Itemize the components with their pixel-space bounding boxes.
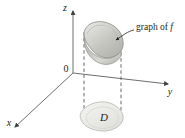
z-axis-label: z <box>62 2 67 13</box>
x-axis <box>15 73 73 127</box>
graph-of-f-label-prefix: graph of <box>136 22 170 32</box>
figure-canvas: D graph of f z y x 0 <box>0 0 185 138</box>
math-figure-graph-of-f: D graph of f z y x 0 <box>0 0 185 138</box>
region-d-label: D <box>99 111 108 123</box>
graph-of-f-label: graph of f <box>136 22 174 32</box>
surface-graph-group <box>84 22 123 65</box>
x-axis-label: x <box>6 117 12 128</box>
origin-label: 0 <box>64 63 69 74</box>
y-axis-label: y <box>167 86 173 97</box>
graph-of-f-label-symbol: f <box>170 22 174 32</box>
region-d-group: D <box>80 102 123 131</box>
y-axis <box>73 73 168 84</box>
graph-of-f-callout: graph of f <box>116 22 174 40</box>
